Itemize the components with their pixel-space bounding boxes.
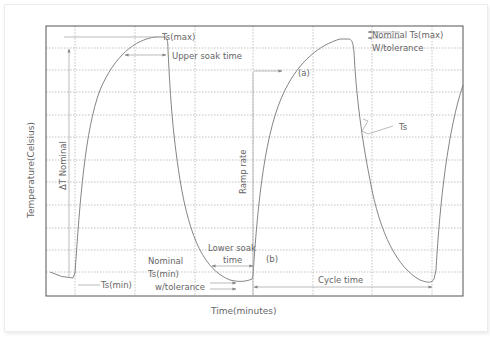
ts-label: Ts bbox=[398, 122, 408, 132]
nominal-ts-max-label: Nominal Ts(max) bbox=[372, 30, 443, 40]
nominal-ts-min-label-1: Nominal bbox=[148, 256, 183, 266]
nominal-ts-min-label-2: Ts(min) bbox=[147, 269, 179, 279]
ts-leader bbox=[362, 119, 393, 134]
upper-soak-label: Upper soak time bbox=[172, 51, 242, 61]
y-axis-label: Temperature(Celsius) bbox=[26, 122, 36, 219]
x-axis-label: Time(minutes) bbox=[210, 306, 276, 316]
temperature-curve bbox=[50, 37, 463, 282]
cycle-time-label: Cycle time bbox=[318, 275, 363, 285]
point-a-label: (a) bbox=[298, 68, 310, 78]
delta-t-label: ΔT Nominal bbox=[58, 141, 68, 190]
ts-min-label: Ts(min) bbox=[100, 280, 132, 290]
nominal-ts-max-tol-label: W/tolerance bbox=[372, 43, 423, 53]
nominal-ts-min-label-3: w/tolerance bbox=[155, 282, 205, 292]
thermal-cycle-diagram: Ts(max) Upper soak time Nominal Ts(max) … bbox=[0, 0, 490, 341]
lower-soak-label-1: Lower soak bbox=[208, 243, 256, 253]
lower-soak-label-2: time bbox=[223, 255, 242, 265]
point-b-label: (b) bbox=[266, 254, 278, 264]
ramp-rate-label: Ramp rate bbox=[238, 149, 248, 194]
ts-max-label: Ts(max) bbox=[161, 32, 195, 42]
